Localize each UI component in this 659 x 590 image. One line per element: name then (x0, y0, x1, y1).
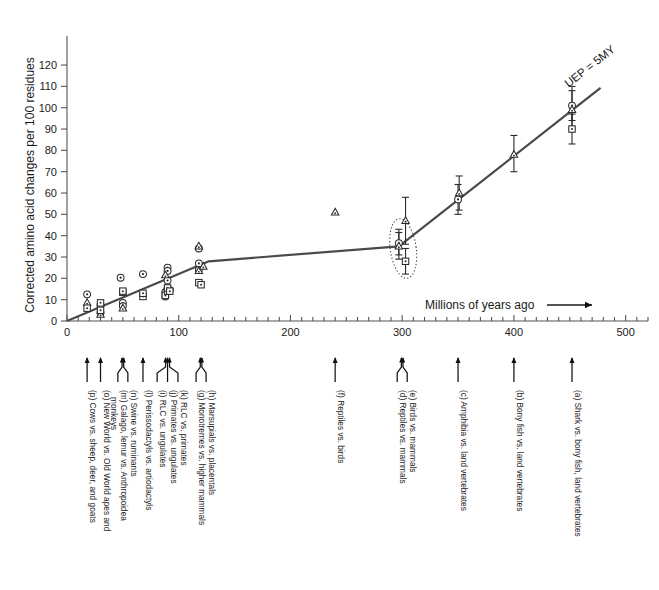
divergence-label-f: (f) Reptiles vs. birds (336, 390, 346, 463)
circle-marker-center-dot (142, 273, 144, 275)
y-tick-label: 110 (39, 80, 57, 92)
arrow-group-l (140, 357, 145, 382)
divergence-label-o: monkeys (109, 397, 119, 430)
x-axis-direction-arrow-head (585, 302, 592, 309)
arrow-group-p (85, 357, 90, 382)
divergence-arrow-head (570, 357, 575, 363)
x-tick-label: 400 (505, 326, 523, 338)
y-tick-label: 30 (45, 251, 57, 263)
divergence-arrow-head (511, 357, 516, 363)
divergence-arrow-head (140, 357, 145, 363)
y-axis-title: Corrected amino acid changes per 100 res… (23, 57, 37, 312)
y-tick-label: 20 (45, 272, 57, 284)
divergence-label-mn: (n) Swine vs. ruminants (129, 390, 139, 477)
square-marker-center-dot (571, 128, 573, 130)
circle-marker-center-dot (198, 262, 200, 264)
x-tick-label: 300 (393, 326, 411, 338)
triangle-marker-center-dot (334, 212, 336, 214)
arrow-group-ijk (157, 357, 178, 382)
trend-line-extension (575, 88, 600, 108)
square-marker-center-dot (405, 260, 407, 262)
evolution-rate-scatter-chart: 0102030405060708090100110120 01002003004… (0, 0, 659, 590)
circle-marker-center-dot (166, 279, 168, 281)
square-marker-center-dot (169, 290, 171, 292)
y-tick-label: 40 (45, 230, 57, 242)
y-tick-label: 70 (45, 166, 57, 178)
divergence-label-de: (d) Reptiles vs. mammals (398, 390, 408, 484)
divergence-label-c: (c) Amphibia vs. land vertebrates (459, 390, 469, 511)
x-tick-label: 200 (281, 326, 299, 338)
divergence-label-de: (e) Birds vs. mammals (408, 390, 418, 473)
divergence-label-ijk: (j) Primates vs. ungulates (169, 390, 179, 484)
divergence-label-p: (p) Cows vs. sheep, deer, and goats (88, 390, 98, 523)
circle-marker-center-dot (166, 270, 168, 272)
y-tick-label: 120 (39, 59, 57, 71)
y-axis-tick-labels: 0102030405060708090100110120 (39, 59, 57, 327)
triangle-marker-center-dot (398, 246, 400, 248)
data-point-markers (83, 102, 575, 317)
arrow-group-de (397, 357, 407, 382)
triangle-marker-center-dot (100, 315, 102, 317)
x-tick-label: 0 (64, 326, 70, 338)
triangle-marker-center-dot (571, 110, 573, 112)
divergence-label-mn: (m) Galago, lemur vs. Anthropoidea (119, 390, 129, 521)
y-tick-label: 50 (45, 208, 57, 220)
axis-lines-and-ticks (61, 36, 648, 321)
x-axis-title-text: Millions of years ago (425, 298, 535, 312)
y-tick-label: 100 (39, 102, 57, 114)
y-tick-label: 0 (51, 315, 57, 327)
square-marker-center-dot (100, 302, 102, 304)
divergence-event-arrows (85, 357, 575, 382)
divergence-arrow-head (98, 357, 103, 363)
triangle-marker-center-dot (513, 155, 515, 157)
arrow-group-a (570, 357, 575, 382)
divergence-arrow-head (456, 357, 461, 363)
error-bars (395, 86, 575, 274)
square-marker-center-dot (200, 284, 202, 286)
x-tick-label: 500 (616, 326, 634, 338)
triangle-marker-center-dot (164, 275, 166, 277)
x-axis-title: Millions of years ago (425, 298, 592, 312)
divergence-label-ijk: (k) RLC vs. primates (179, 390, 189, 466)
arrow-group-c (456, 357, 461, 382)
uep-label-text: UEP = 5MY (562, 43, 617, 90)
arrow-group-o (98, 357, 103, 382)
square-marker-center-dot (86, 307, 88, 309)
circle-marker-center-dot (86, 293, 88, 295)
figure-canvas: 0102030405060708090100110120 01002003004… (0, 0, 659, 590)
triangle-marker-center-dot (202, 267, 204, 269)
y-tick-label: 80 (45, 144, 57, 156)
triangle-marker-center-dot (86, 303, 88, 305)
uep-trend-polyline (67, 108, 575, 321)
circle-marker-center-dot (457, 198, 459, 200)
series-square (84, 126, 575, 314)
divergence-label-gh: (h) Marsupials vs. placentals (207, 390, 217, 495)
arrow-group-f (333, 357, 338, 382)
square-marker-center-dot (122, 290, 124, 292)
divergence-arrow-head (85, 357, 90, 363)
divergence-event-labels: (p) Cows vs. sheep, deer, and goats(o) N… (88, 390, 583, 537)
triangle-marker-center-dot (198, 271, 200, 273)
divergence-arrow-head (333, 357, 338, 363)
triangle-marker-center-dot (122, 308, 124, 310)
divergence-label-ijk: (i) RLC vs. ungulates (158, 390, 168, 467)
divergence-label-gh: (g) Monotremes vs. higher mammals (197, 390, 207, 525)
x-tick-label: 100 (170, 326, 188, 338)
x-axis-tick-labels: 0100200300400500 (64, 326, 635, 338)
divergence-label-a: (a) Shark vs. bony fish, land vertebrate… (573, 390, 583, 537)
arrow-group-mn (118, 357, 128, 382)
y-axis-title-text: Corrected amino acid changes per 100 res… (23, 57, 37, 312)
divergence-label-l: (l) Perissodactyls vs. artiodactyls (144, 390, 154, 510)
square-marker-center-dot (142, 292, 144, 294)
arrow-group-gh (196, 357, 206, 382)
y-tick-label: 10 (45, 294, 57, 306)
square-marker-center-dot (100, 309, 102, 311)
series-triangle (83, 106, 575, 317)
y-tick-label: 90 (45, 123, 57, 135)
circle-marker-center-dot (120, 277, 122, 279)
triangle-marker-center-dot (458, 193, 460, 195)
triangle-marker-center-dot (198, 246, 200, 248)
divergence-label-b: (b) Bony fish vs. land vertebrates (515, 390, 525, 511)
uep-annotation: UEP = 5MY (562, 43, 617, 90)
arrow-group-b (511, 357, 516, 382)
